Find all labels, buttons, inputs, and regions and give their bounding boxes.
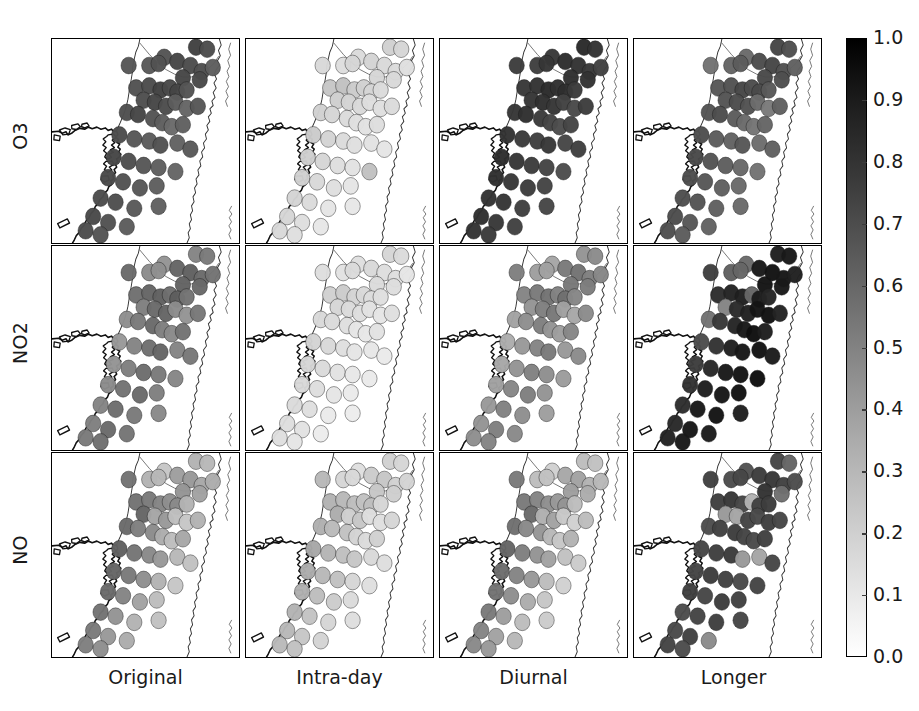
station-marker bbox=[787, 266, 802, 283]
station-markers bbox=[660, 246, 802, 450]
station-marker bbox=[714, 387, 729, 404]
colorbar-tick-label: 0.2 bbox=[873, 521, 903, 543]
station-marker bbox=[384, 98, 399, 115]
station-marker bbox=[324, 106, 339, 123]
station-marker bbox=[750, 370, 765, 387]
station-marker bbox=[272, 222, 287, 239]
station-marker bbox=[179, 289, 194, 306]
station-marker bbox=[701, 218, 716, 235]
station-marker bbox=[272, 636, 287, 653]
station-marker bbox=[132, 594, 147, 611]
station-marker bbox=[541, 551, 556, 568]
station-marker bbox=[377, 348, 392, 365]
station-marker bbox=[287, 604, 302, 621]
station-marker bbox=[326, 387, 341, 404]
station-marker bbox=[494, 563, 509, 580]
station-marker bbox=[151, 366, 166, 383]
station-marker bbox=[321, 545, 336, 562]
map-panel-no2-longer bbox=[633, 245, 822, 451]
station-marker bbox=[279, 415, 294, 432]
station-marker bbox=[782, 455, 797, 472]
station-marker bbox=[667, 208, 682, 225]
station-marker bbox=[733, 469, 748, 486]
colorbar-tick-mark bbox=[862, 471, 867, 472]
station-marker bbox=[115, 380, 130, 397]
station-marker bbox=[774, 278, 789, 295]
station-marker bbox=[309, 380, 324, 397]
station-marker bbox=[494, 356, 509, 373]
station-marker bbox=[718, 364, 733, 381]
station-marker bbox=[500, 127, 515, 144]
station-marker bbox=[718, 571, 733, 588]
station-marker bbox=[192, 278, 207, 295]
station-marker bbox=[127, 200, 142, 217]
station-marker bbox=[399, 59, 414, 76]
station-markers bbox=[466, 246, 608, 450]
station-marker bbox=[302, 608, 317, 625]
station-marker bbox=[151, 198, 166, 215]
station-marker bbox=[733, 55, 748, 72]
station-marker bbox=[520, 594, 535, 611]
station-marker bbox=[386, 71, 401, 88]
station-marker bbox=[466, 429, 481, 446]
station-marker bbox=[132, 180, 147, 197]
station-markers bbox=[466, 39, 608, 243]
station-marker bbox=[660, 636, 675, 653]
station-marker bbox=[345, 366, 360, 383]
station-marker bbox=[481, 190, 496, 207]
station-marker bbox=[121, 153, 136, 170]
station-marker bbox=[694, 334, 709, 351]
station-marker bbox=[108, 194, 123, 211]
station-marker bbox=[300, 563, 315, 580]
station-marker bbox=[100, 583, 115, 600]
station-marker bbox=[571, 141, 586, 158]
station-marker bbox=[733, 366, 748, 383]
station-marker bbox=[100, 169, 115, 186]
station-marker bbox=[709, 338, 724, 355]
station-marker bbox=[300, 356, 315, 373]
station-marker bbox=[151, 405, 166, 422]
station-marker bbox=[682, 169, 697, 186]
station-marker bbox=[515, 545, 530, 562]
station-marker bbox=[200, 248, 215, 265]
station-markers bbox=[660, 39, 802, 243]
map-panel-o3-original bbox=[51, 38, 240, 244]
station-marker bbox=[287, 433, 302, 450]
colorbar-tick-label: 0.0 bbox=[873, 645, 903, 667]
station-marker bbox=[130, 106, 145, 123]
station-marker bbox=[330, 364, 345, 381]
colorbar-tick-label: 0.3 bbox=[873, 459, 903, 481]
station-marker bbox=[757, 530, 772, 547]
station-marker bbox=[494, 149, 509, 166]
station-marker bbox=[515, 407, 530, 424]
station-marker bbox=[326, 180, 341, 197]
station-marker bbox=[175, 530, 190, 547]
station-marker bbox=[709, 131, 724, 148]
station-marker bbox=[373, 289, 388, 306]
station-marker bbox=[121, 360, 136, 377]
station-marker bbox=[315, 471, 330, 488]
station-marker bbox=[190, 512, 205, 529]
station-marker bbox=[343, 592, 358, 609]
colorbar-tick-mark bbox=[862, 348, 867, 349]
station-marker bbox=[306, 127, 321, 144]
station-marker bbox=[313, 632, 328, 649]
station-marker bbox=[539, 159, 554, 176]
figure-root: O3 NO2 NO Original Intra-day Diurnal Lon… bbox=[0, 0, 919, 711]
station-marker bbox=[507, 632, 522, 649]
station-marker bbox=[503, 587, 518, 604]
station-marker bbox=[509, 360, 524, 377]
station-marker bbox=[509, 153, 524, 170]
station-marker bbox=[539, 405, 554, 422]
map-panel-no2-original bbox=[51, 245, 240, 451]
station-marker bbox=[563, 116, 578, 133]
station-marker bbox=[302, 401, 317, 418]
station-marker bbox=[78, 222, 93, 239]
station-marker bbox=[682, 583, 697, 600]
station-marker bbox=[515, 614, 530, 631]
station-marker bbox=[509, 471, 524, 488]
station-marker bbox=[541, 344, 556, 361]
station-marker bbox=[302, 194, 317, 211]
station-marker bbox=[667, 415, 682, 432]
colorbar-tick-label: 0.8 bbox=[873, 150, 903, 172]
